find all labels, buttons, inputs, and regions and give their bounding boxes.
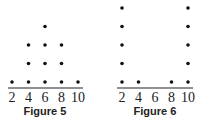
data-dot bbox=[120, 80, 124, 84]
data-dot bbox=[60, 80, 64, 84]
data-dot bbox=[76, 80, 80, 84]
x-tick-label: 6 bbox=[152, 90, 159, 105]
data-dot bbox=[170, 80, 174, 84]
data-dot bbox=[43, 43, 47, 47]
data-dot bbox=[137, 80, 141, 84]
data-dot bbox=[186, 62, 190, 66]
x-tick-label: 8 bbox=[58, 90, 65, 105]
data-dot bbox=[27, 43, 31, 47]
dot-plots: 246810 Figure 5 246810 Figure 6 bbox=[0, 0, 201, 123]
data-dot bbox=[60, 43, 64, 47]
data-dot bbox=[186, 80, 190, 84]
data-dot bbox=[120, 62, 124, 66]
data-dot bbox=[186, 43, 190, 47]
data-dot bbox=[10, 80, 14, 84]
data-dot bbox=[60, 62, 64, 66]
data-dot bbox=[120, 6, 124, 10]
data-dot bbox=[120, 25, 124, 29]
data-dot bbox=[186, 25, 190, 29]
data-dot bbox=[120, 43, 124, 47]
x-tick-label: 10 bbox=[181, 90, 195, 105]
figure-6-plot: 246810 Figure 6 bbox=[117, 6, 195, 117]
data-dot bbox=[186, 6, 190, 10]
x-tick-label: 4 bbox=[25, 90, 32, 105]
figure-5-plot: 246810 Figure 5 bbox=[8, 25, 85, 117]
figure-caption: Figure 5 bbox=[24, 105, 67, 117]
data-dot bbox=[27, 62, 31, 66]
x-tick-label: 10 bbox=[71, 90, 85, 105]
x-tick-label: 6 bbox=[42, 90, 49, 105]
data-dot bbox=[43, 25, 47, 29]
x-tick-label: 2 bbox=[119, 90, 126, 105]
data-dot bbox=[43, 80, 47, 84]
data-dot bbox=[43, 62, 47, 66]
x-tick-label: 4 bbox=[135, 90, 142, 105]
figure-caption: Figure 6 bbox=[134, 105, 177, 117]
x-tick-label: 2 bbox=[9, 90, 16, 105]
data-dot bbox=[27, 80, 31, 84]
x-tick-label: 8 bbox=[168, 90, 175, 105]
